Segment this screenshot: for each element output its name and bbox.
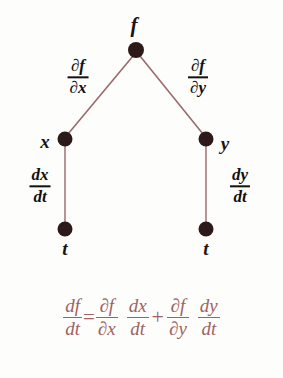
fraction-denominator: dt <box>198 318 220 339</box>
fraction-denominator: dt <box>127 318 149 339</box>
fraction-numerator: df <box>63 296 82 318</box>
equation-row: df dt = ∂f ∂x dx dt + ∂f ∂y dy dt <box>62 296 221 339</box>
fraction-numerator: ∂f <box>188 57 208 78</box>
fraction-denominator: dt <box>230 187 250 206</box>
equation-term-dy-dt: dy dt <box>198 296 220 339</box>
edge-label-dx-dt: dx dt <box>30 166 51 205</box>
fraction-denominator: ∂x <box>96 318 118 339</box>
edge-label-df-dy: ∂f ∂y <box>188 57 208 96</box>
fraction-numerator: dy <box>198 296 220 318</box>
fraction-numerator: ∂f <box>167 296 189 318</box>
fraction-numerator: dx <box>127 296 149 318</box>
equation-term-df-dt: df dt <box>63 296 82 339</box>
edge-label-dy-dt: dy dt <box>230 166 250 205</box>
equation-term-partial-f-partial-y: ∂f ∂y <box>167 296 189 339</box>
equation-term-partial-f-partial-x: ∂f ∂x <box>96 296 118 339</box>
node-label-x: x <box>40 132 50 151</box>
fraction-partial-f-partial-x: ∂f ∂x <box>68 57 89 96</box>
node-dot-x <box>58 132 73 147</box>
fraction-denominator: ∂x <box>68 78 89 97</box>
fraction-dy-dt: dy dt <box>230 166 250 205</box>
equation-term-dx-dt: dx dt <box>127 296 149 339</box>
fraction-denominator: dt <box>30 187 51 206</box>
chain-rule-equation: df dt = ∂f ∂x dx dt + ∂f ∂y dy dt <box>0 282 283 352</box>
node-dot-f <box>128 42 144 58</box>
node-label-t-left: t <box>62 239 67 258</box>
node-dot-y <box>199 132 214 147</box>
fraction-numerator: ∂f <box>96 296 118 318</box>
node-label-t-right: t <box>203 239 208 258</box>
node-label-f: f <box>131 15 138 36</box>
fraction-numerator: ∂f <box>68 57 89 78</box>
node-label-y: y <box>221 134 229 153</box>
operator-plus: + <box>150 306 166 328</box>
fraction-partial-f-partial-y: ∂f ∂y <box>188 57 208 96</box>
chain-rule-diagram: f x y t t ∂f ∂x ∂f ∂y dx dt dy dt df <box>0 0 283 378</box>
fraction-dx-dt: dx dt <box>30 166 51 205</box>
node-dot-t-right <box>199 222 214 237</box>
operator-equals: = <box>83 307 95 328</box>
fraction-numerator: dy <box>230 166 250 187</box>
node-dot-t-left <box>58 222 73 237</box>
edge-label-df-dx: ∂f ∂x <box>68 57 89 96</box>
fraction-numerator: dx <box>30 166 51 187</box>
fraction-denominator: ∂y <box>188 78 208 97</box>
fraction-denominator: dt <box>63 318 82 339</box>
fraction-denominator: ∂y <box>167 318 189 339</box>
